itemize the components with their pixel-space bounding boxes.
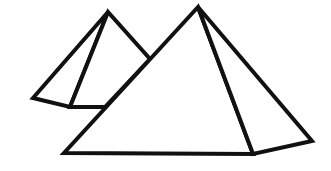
pyramids-illustration: Two pyramids line drawing xyxy=(0,0,331,171)
pyramids-drawing xyxy=(0,0,331,171)
